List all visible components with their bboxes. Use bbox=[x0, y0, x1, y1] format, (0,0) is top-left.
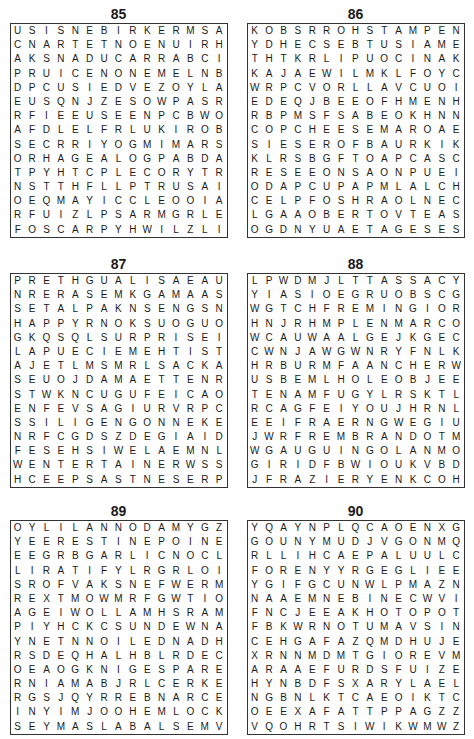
grid-letter: K bbox=[248, 67, 262, 81]
grid-letter: W bbox=[68, 606, 82, 620]
grid-letter: W bbox=[449, 359, 463, 373]
grid-letter: C bbox=[435, 180, 449, 194]
grid-letter: A bbox=[126, 52, 140, 66]
grid-letter: M bbox=[406, 578, 420, 592]
grid-letter: S bbox=[291, 288, 305, 302]
grid-letter: O bbox=[11, 194, 25, 208]
grid-letter: R bbox=[212, 95, 226, 109]
grid-letter: H bbox=[262, 52, 276, 66]
grid-letter: E bbox=[25, 663, 39, 677]
grid-letter: M bbox=[68, 677, 82, 691]
grid-letter: L bbox=[126, 635, 140, 649]
grid-letter: E bbox=[377, 473, 391, 487]
grid-letter: O bbox=[169, 194, 183, 208]
grid-letter: O bbox=[198, 123, 212, 137]
grid-letter: S bbox=[291, 152, 305, 166]
grid-letter: K bbox=[406, 109, 420, 123]
grid-letter: S bbox=[25, 416, 39, 430]
grid-letter: R bbox=[169, 166, 183, 180]
grid-letter: M bbox=[377, 620, 391, 634]
grid-letter: M bbox=[169, 138, 183, 152]
grid-letter: R bbox=[25, 578, 39, 592]
grid-letter: J bbox=[82, 705, 96, 719]
grid-letter: E bbox=[140, 535, 154, 549]
grid-letter: J bbox=[276, 317, 290, 331]
grid-letter: A bbox=[348, 359, 362, 373]
grid-letter: A bbox=[291, 67, 305, 81]
grid-letter: P bbox=[25, 81, 39, 95]
grid-letter: Y bbox=[111, 564, 125, 578]
grid-letter: R bbox=[198, 663, 212, 677]
grid-letter: I bbox=[449, 166, 463, 180]
grid-letter: O bbox=[319, 194, 333, 208]
grid-letter: T bbox=[54, 359, 68, 373]
grid-letter: B bbox=[334, 458, 348, 472]
grid-letter: R bbox=[435, 359, 449, 373]
grid-letter: D bbox=[39, 123, 53, 137]
grid-letter: V bbox=[126, 81, 140, 95]
grid-letter: S bbox=[11, 416, 25, 430]
grid-letter: E bbox=[377, 564, 391, 578]
grid-letter: A bbox=[334, 606, 348, 620]
grid-letter: Z bbox=[212, 521, 226, 535]
grid-letter: Q bbox=[348, 521, 362, 535]
grid-letter: Y bbox=[82, 691, 96, 705]
grid-letter: T bbox=[348, 152, 362, 166]
grid-letter: S bbox=[212, 288, 226, 302]
grid-letter: E bbox=[334, 95, 348, 109]
grid-letter: H bbox=[68, 444, 82, 458]
grid-letter: Q bbox=[54, 95, 68, 109]
grid-letter: A bbox=[68, 288, 82, 302]
grid-letter: F bbox=[140, 592, 154, 606]
grid-letter: Y bbox=[111, 223, 125, 237]
grid-letter: A bbox=[319, 416, 333, 430]
grid-letter: A bbox=[334, 223, 348, 237]
grid-letter: I bbox=[111, 535, 125, 549]
grid-letter: R bbox=[54, 138, 68, 152]
grid-letter: O bbox=[248, 180, 262, 194]
grid-letter: E bbox=[449, 663, 463, 677]
grid-letter: I bbox=[449, 592, 463, 606]
grid-letter: L bbox=[449, 388, 463, 402]
grid-letter: R bbox=[276, 473, 290, 487]
grid-letter: P bbox=[39, 345, 53, 359]
grid-letter: K bbox=[377, 67, 391, 81]
grid-letter: R bbox=[305, 416, 319, 430]
grid-letter: E bbox=[97, 288, 111, 302]
grid-letter: L bbox=[39, 521, 53, 535]
grid-letter: N bbox=[348, 578, 362, 592]
grid-letter: J bbox=[68, 373, 82, 387]
grid-letter: B bbox=[435, 458, 449, 472]
grid-letter: F bbox=[348, 138, 362, 152]
grid-letter: O bbox=[111, 67, 125, 81]
grid-letter: M bbox=[111, 373, 125, 387]
grid-letter: U bbox=[363, 52, 377, 66]
grid-letter: W bbox=[262, 430, 276, 444]
grid-letter: D bbox=[291, 274, 305, 288]
grid-letter: X bbox=[291, 705, 305, 719]
grid-letter: N bbox=[11, 288, 25, 302]
grid-letter: I bbox=[319, 473, 333, 487]
grid-letter: Y bbox=[11, 635, 25, 649]
grid-letter: S bbox=[111, 620, 125, 634]
grid-letter: Y bbox=[248, 578, 262, 592]
grid-letter: H bbox=[305, 549, 319, 563]
grid-letter: E bbox=[154, 458, 168, 472]
grid-letter: I bbox=[449, 81, 463, 95]
grid-letter: R bbox=[319, 24, 333, 38]
grid-letter: J bbox=[291, 345, 305, 359]
grid-letter: Y bbox=[334, 564, 348, 578]
puzzle-89: 89 OYLILANNODAMYGZYEERESTINEPOINEEEGRBGA… bbox=[0, 502, 237, 735]
grid-letter: R bbox=[276, 564, 290, 578]
grid-letter: O bbox=[391, 109, 405, 123]
grid-letter: A bbox=[82, 578, 96, 592]
grid-letter: C bbox=[449, 691, 463, 705]
grid-letter: F bbox=[391, 663, 405, 677]
grid-letter: S bbox=[391, 274, 405, 288]
grid-letter: P bbox=[39, 317, 53, 331]
grid-letter: K bbox=[406, 458, 420, 472]
grid-letter: I bbox=[111, 24, 125, 38]
grid-letter: E bbox=[183, 720, 197, 734]
grid-letter: S bbox=[319, 38, 333, 52]
grid-letter: C bbox=[406, 81, 420, 95]
